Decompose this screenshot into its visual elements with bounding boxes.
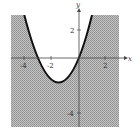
x-tick-label: -2	[47, 62, 54, 70]
x-axis-label: x	[128, 55, 132, 63]
y-axis-label: y	[75, 1, 81, 9]
inequality-graph: -4 -2 2 2 -4 x y	[0, 0, 140, 137]
x-tick-label: 2	[103, 62, 107, 70]
x-tick-label: -4	[20, 62, 27, 70]
y-tick-label: -4	[67, 110, 74, 118]
y-tick-label: 2	[70, 27, 74, 35]
